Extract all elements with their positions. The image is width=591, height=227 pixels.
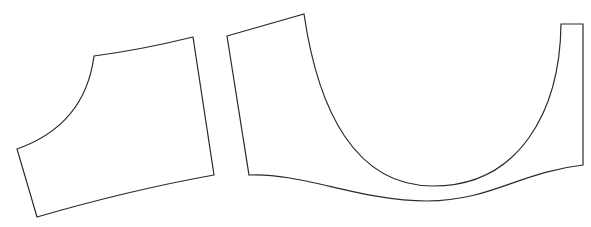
pattern-drawing	[0, 0, 591, 227]
pattern-canvas	[0, 0, 591, 227]
sleeve-piece	[17, 37, 214, 217]
bodice-piece	[227, 14, 583, 201]
